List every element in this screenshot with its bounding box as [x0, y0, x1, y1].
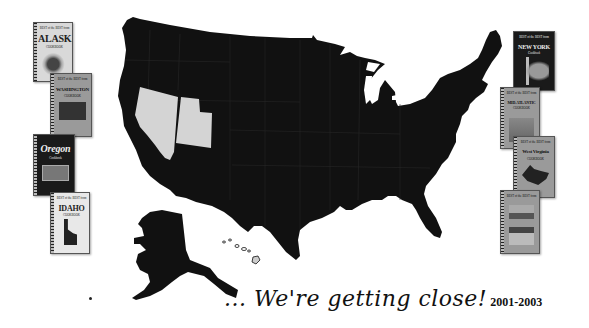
spiral-binding: [501, 88, 504, 148]
washington-cookbook-cover: BEST of the BEST from WASHINGTON COOKBOO…: [50, 73, 92, 137]
book-header: BEST of the BEST from: [506, 194, 537, 198]
cover-illustration: [509, 205, 534, 245]
cover-illustration: [42, 165, 69, 181]
cover-illustration: [520, 57, 549, 85]
book-header: BEST of the BEST from: [56, 196, 87, 200]
spiral-binding: [51, 74, 54, 136]
book-header: BEST of the BEST from: [56, 77, 89, 81]
book-subtitle: COOKBOOK: [56, 94, 89, 98]
hawaii-islands: [223, 239, 261, 264]
book-subtitle: Cookbook: [39, 156, 72, 160]
west-virginia-state-illustration: [522, 165, 549, 185]
spiral-binding: [34, 135, 37, 195]
spiral-binding: [514, 137, 517, 197]
spiral-binding: [51, 193, 54, 253]
book-title: Oregon: [38, 143, 73, 154]
oregon-cookbook-cover: Oregon Cookbook: [33, 134, 75, 196]
book-header: BEST of the BEST from: [506, 91, 537, 95]
decorative-dot: [89, 297, 92, 300]
alaska-shape: [132, 210, 238, 300]
idaho-state-illustration: [64, 219, 77, 245]
book-title: NEW YORK: [515, 44, 553, 50]
book-subtitle: COOKBOOK: [519, 157, 552, 161]
book-title: WASHINGTON: [55, 87, 90, 92]
book-title: MID-ATLANTIC: [505, 100, 538, 105]
cover-illustration: [42, 51, 67, 75]
book-subtitle: COOKBOOK: [506, 106, 537, 110]
book-header: BEST of the BEST from: [519, 140, 552, 144]
book-header: BEST of the BEST from: [516, 35, 552, 39]
tagline-years: 2001-2003: [490, 295, 542, 309]
book-subtitle: COOKBOOK: [56, 213, 87, 217]
cover-illustration: [59, 102, 86, 120]
book-subtitle: Cookbook: [516, 51, 552, 55]
book-title: IDAHO: [55, 204, 88, 213]
new-york-cookbook-cover: BEST of the BEST from NEW YORK Cookbook: [513, 31, 555, 91]
spiral-binding: [34, 23, 37, 81]
book-title: ALASKA: [38, 33, 71, 44]
tagline-text: ... We're getting close!: [224, 286, 487, 311]
book-subtitle: COOKBOOK: [39, 45, 70, 49]
spiral-binding: [501, 191, 504, 253]
book-title: West Virginia: [518, 149, 553, 154]
us-map: [0, 0, 589, 328]
fourth-cookbook-cover: BEST of the BEST from: [500, 190, 540, 254]
book-header: BEST of the BEST from: [39, 26, 70, 30]
idaho-cookbook-cover: BEST of the BEST from IDAHO COOKBOOK: [50, 192, 90, 254]
tagline: ... We're getting close!2001-2003: [224, 286, 542, 311]
west-virginia-cookbook-cover: BEST of the BEST from West Virginia COOK…: [513, 136, 555, 198]
